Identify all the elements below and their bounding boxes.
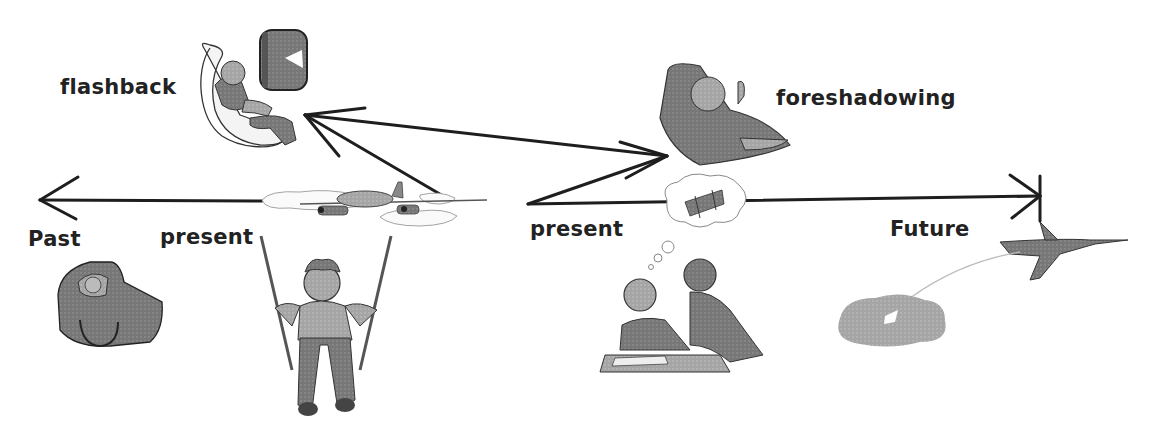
fighter-jet-illustration [838, 222, 1128, 347]
airplane-window-illustration [260, 30, 307, 90]
past-label: Past [28, 227, 81, 251]
past-timeline-arrow [40, 177, 262, 219]
boy-on-swing-illustration [261, 236, 391, 416]
future-label: Future [890, 217, 970, 241]
future-timeline-arrow [528, 175, 1040, 221]
flashback-foreshadowing-arrow [305, 108, 667, 204]
present-left-label: present [160, 225, 253, 249]
pilot-in-cockpit-illustration [660, 64, 790, 165]
propeller-plane-in-clouds-illustration [262, 182, 487, 226]
present-right-label: present [530, 217, 623, 241]
flashback-label: flashback [60, 75, 176, 99]
baby-in-bassinet-illustration [58, 262, 162, 346]
foreshadowing-label: foreshadowing [776, 86, 956, 110]
